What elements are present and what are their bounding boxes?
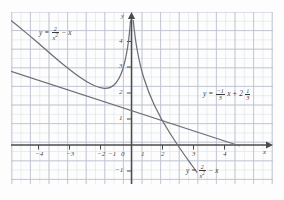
line-slope-fraction: −1 3 [216,88,225,101]
y-tick-label-4: 4 [119,37,123,45]
curve-top-eq: = [44,28,49,37]
y-axis-name: y [121,12,124,20]
curve-bottom-denominator: x2 [199,170,206,179]
x-tick-label--2: −2 [97,150,105,158]
y-axis-arrow [128,12,135,19]
y-tick-label--1: −1 [115,166,123,174]
curve-bottom-eq: = [191,166,196,175]
line-intercept-fraction: 1 3 [245,88,250,101]
equation-label-curve-top: y = 2 x2 − x [39,26,71,41]
equation-label-line: y = −1 3 x + 2 1 3 [203,88,251,101]
x-tick-label--1: −1 [108,150,116,158]
x-tick-label-1: 1 [141,150,145,158]
curve-top-fraction: 2 x2 [52,26,59,41]
curve-top-tail: − x [61,28,71,37]
curve-top-denominator: x2 [52,32,59,41]
y-tick-label-2: 2 [119,88,123,96]
line-slope-numerator: −1 [216,88,225,94]
curve-bottom-lhs: y [186,166,189,175]
curve-top-lhs: y [39,28,42,37]
x-tick-label-0: 0 [121,150,125,158]
series-straight-line [11,71,240,146]
line-mid: x + 2 [227,89,243,98]
curve-bottom-tail: − x [208,166,218,175]
x-tick-label-4: 4 [223,150,227,158]
y-tick-label-1: 1 [119,114,123,122]
line-eq: = [208,89,213,98]
x-tick-label-3: 3 [192,150,196,158]
line-lhs: y [203,89,206,98]
y-tick-label-3: 3 [119,62,123,70]
curve-top-exponent: 2 [55,32,58,38]
x-tick-label--3: −3 [66,150,74,158]
line-slope-denominator: 3 [216,94,225,101]
curve-bottom-exponent: 2 [202,170,205,176]
x-tick-label-2: 2 [161,150,165,158]
equation-label-curve-bottom: y = 2 x2 − x [186,164,218,179]
x-axis-name: x [263,148,266,156]
line-intercept-denominator: 3 [245,94,250,101]
curve-bottom-fraction: 2 x2 [199,164,206,179]
graph-figure: −4 −3 −2 −1 0 1 2 3 4 4 3 2 1 −1 x y y =… [0,0,284,200]
x-tick-label--4: −4 [35,150,43,158]
